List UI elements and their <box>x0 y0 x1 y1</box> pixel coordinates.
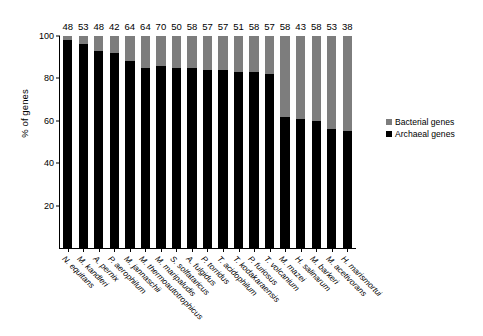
x-tick-mark <box>99 248 100 252</box>
bar-top-label: 70 <box>156 22 167 32</box>
bar-archaeal-segment <box>343 131 352 248</box>
bar-archaeal-segment <box>265 74 274 248</box>
x-tick-mark <box>192 248 193 252</box>
bar-top-label: 42 <box>109 22 120 32</box>
chart-legend: Bacterial genesArchaeal genes <box>386 116 455 140</box>
bar-bacterial-segment <box>343 36 352 248</box>
bar-archaeal-segment <box>234 72 243 248</box>
bar-archaeal-segment <box>187 68 196 248</box>
legend-item[interactable]: Bacterial genes <box>386 116 455 128</box>
bar-archaeal-segment <box>125 61 134 248</box>
bar-bacterial-segment <box>156 36 165 248</box>
bar-bacterial-segment <box>187 36 196 248</box>
legend-label: Archaeal genes <box>395 128 455 140</box>
bar-top-label: 58 <box>249 22 260 32</box>
bar-bacterial-segment <box>94 36 103 248</box>
bar-archaeal-segment <box>218 70 227 248</box>
bar-archaeal-segment <box>94 51 103 248</box>
bar-group[interactable]: 48N. equitans <box>63 36 72 248</box>
bar-group[interactable]: 42P. aerophilum <box>110 36 119 248</box>
bar-top-label: 58 <box>311 22 322 32</box>
x-tick-mark <box>68 248 69 252</box>
bar-archaeal-segment <box>79 44 88 248</box>
x-tick-mark <box>176 248 177 252</box>
legend-swatch-icon <box>386 119 392 125</box>
x-tick-mark <box>83 248 84 252</box>
bar-top-label: 38 <box>342 22 353 32</box>
y-tick-label: 60 <box>16 116 54 125</box>
bar-group[interactable]: 57T. acidophilum <box>218 36 227 248</box>
bar-bacterial-segment <box>280 36 289 248</box>
bar-bacterial-segment <box>79 36 88 248</box>
bar-group[interactable]: 64M. jannaschii <box>125 36 134 248</box>
plot-area: 48N. equitans53M. kandleri48A. pernix42P… <box>60 36 355 248</box>
x-tick-mark <box>347 248 348 252</box>
bar-bacterial-segment <box>234 36 243 248</box>
bar-group[interactable]: 43H. salinarum <box>296 36 305 248</box>
x-tick-mark <box>316 248 317 252</box>
bar-group[interactable]: 53M. kandleri <box>79 36 88 248</box>
y-tick-label: 80 <box>16 74 54 83</box>
x-tick-mark <box>207 248 208 252</box>
bar-archaeal-segment <box>296 119 305 248</box>
x-tick-mark <box>161 248 162 252</box>
legend-label: Bacterial genes <box>395 116 454 128</box>
bar-archaeal-segment <box>203 70 212 248</box>
bar-bacterial-segment <box>203 36 212 248</box>
bar-bacterial-segment <box>125 36 134 248</box>
x-tick-mark <box>254 248 255 252</box>
x-tick-mark <box>285 248 286 252</box>
bar-group[interactable]: 58P. furiosus <box>249 36 258 248</box>
bar-archaeal-segment <box>312 121 321 248</box>
bar-archaeal-segment <box>141 68 150 248</box>
bar-top-label: 50 <box>171 22 182 32</box>
bar-group[interactable]: 58M. barkeri <box>312 36 321 248</box>
bar-bacterial-segment <box>327 36 336 248</box>
bar-group[interactable]: 58M. mazei <box>280 36 289 248</box>
bar-top-label: 43 <box>295 22 306 32</box>
bar-group[interactable]: 70M. maripaludis <box>156 36 165 248</box>
bar-group[interactable]: 57T. volcanium <box>265 36 274 248</box>
x-tick-mark <box>130 248 131 252</box>
legend-item[interactable]: Archaeal genes <box>386 128 455 140</box>
bar-group[interactable]: 53M. acetivorans <box>327 36 336 248</box>
bar-group[interactable]: 58A. fulgidus <box>187 36 196 248</box>
bar-top-label: 48 <box>94 22 105 32</box>
x-tick-mark <box>332 248 333 252</box>
bar-group[interactable]: 38H. marismortui <box>343 36 352 248</box>
bar-group[interactable]: 51T. kodakaraensis <box>234 36 243 248</box>
bar-archaeal-segment <box>110 53 119 248</box>
bar-archaeal-segment <box>63 40 72 248</box>
bar-top-label: 48 <box>62 22 73 32</box>
bar-bacterial-segment <box>110 36 119 248</box>
bar-group[interactable]: 48A. pernix <box>94 36 103 248</box>
bar-archaeal-segment <box>172 68 181 248</box>
bar-bacterial-segment <box>141 36 150 248</box>
bar-bacterial-segment <box>218 36 227 248</box>
bar-bacterial-segment <box>172 36 181 248</box>
bar-archaeal-segment <box>156 66 165 248</box>
bar-top-label: 64 <box>140 22 151 32</box>
bar-group[interactable]: 50S. solfataricus <box>172 36 181 248</box>
x-tick-mark <box>114 248 115 252</box>
stacked-bar-chart: % of genes 20406080100 48N. equitans53M.… <box>0 0 483 336</box>
x-tick-mark <box>239 248 240 252</box>
bar-top-label: 64 <box>125 22 136 32</box>
y-tick-label: 40 <box>16 159 54 168</box>
x-tick-mark <box>223 248 224 252</box>
y-tick-label: 100 <box>16 32 54 41</box>
legend-swatch-icon <box>386 131 392 137</box>
bar-top-label: 58 <box>280 22 291 32</box>
bar-top-label: 57 <box>264 22 275 32</box>
bar-top-label: 53 <box>78 22 89 32</box>
bar-bacterial-segment <box>63 36 72 248</box>
bar-group[interactable]: 57P. torridus <box>203 36 212 248</box>
bar-top-label: 51 <box>233 22 244 32</box>
bar-archaeal-segment <box>327 129 336 248</box>
bar-top-label: 57 <box>218 22 229 32</box>
bar-group[interactable]: 64M. thermoautotrophicus <box>141 36 150 248</box>
bar-top-label: 57 <box>202 22 213 32</box>
bar-archaeal-segment <box>249 72 258 248</box>
bar-bacterial-segment <box>249 36 258 248</box>
bar-top-label: 58 <box>187 22 198 32</box>
